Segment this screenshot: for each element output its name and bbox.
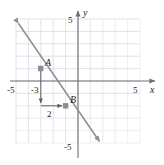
x-tick-label-5: 5: [133, 86, 138, 95]
graph-canvas: [0, 0, 164, 165]
plotted-line: [19, 24, 100, 142]
x-axis-label: x: [150, 85, 154, 95]
y-axis-label: y: [83, 8, 87, 18]
x-tick-label-neg5: -5: [7, 86, 15, 95]
x-tick-label-neg3: -3: [31, 86, 39, 95]
coordinate-graph-figure: -5 -3 5 5 -5 x y A B 2: [0, 0, 164, 165]
point-A-marker: [38, 66, 43, 71]
y-tick-label-5: 5: [68, 16, 73, 25]
point-B-label: B: [70, 95, 76, 105]
point-A-label: A: [45, 58, 51, 68]
point-B-marker: [63, 103, 68, 108]
run-length-label: 2: [47, 110, 52, 119]
slope-annotation: [41, 69, 62, 106]
y-tick-label-neg5: -5: [64, 143, 72, 152]
